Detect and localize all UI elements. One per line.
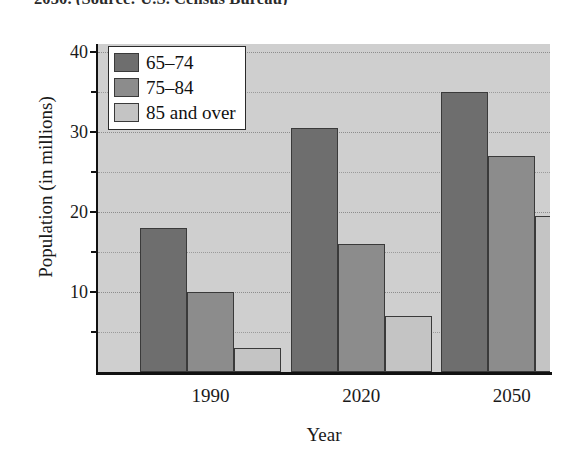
bar-2050-series-1 bbox=[488, 156, 535, 372]
bar-2020-series-2 bbox=[385, 316, 432, 372]
bar-2020-series-0 bbox=[291, 128, 338, 372]
legend-swatch-1 bbox=[114, 78, 139, 97]
x-axis-tick-labels: 199020202050 bbox=[98, 385, 550, 413]
legend-item-0: 65–74 bbox=[114, 51, 236, 74]
x-tick-label-1990: 1990 bbox=[192, 385, 230, 407]
x-axis-spine bbox=[96, 372, 552, 375]
bar-2020-series-1 bbox=[338, 244, 385, 372]
bar-2050-series-0 bbox=[441, 92, 488, 372]
bar-1990-series-0 bbox=[140, 228, 187, 372]
legend-item-2: 85 and over bbox=[114, 101, 236, 124]
y-tick-label-10: 10 bbox=[54, 283, 88, 301]
x-tick-label-2050: 2050 bbox=[493, 385, 531, 407]
bar-1990-series-2 bbox=[234, 348, 281, 372]
legend-swatch-0 bbox=[114, 53, 139, 72]
chart-legend: 65–7475–8485 and over bbox=[108, 46, 246, 130]
chart-figure: 2050. (Source: U.S. Census Bureau) Popul… bbox=[0, 0, 572, 470]
legend-label-0: 65–74 bbox=[146, 53, 194, 72]
legend-item-1: 75–84 bbox=[114, 76, 236, 99]
y-tick-label-20: 20 bbox=[54, 203, 88, 221]
legend-label-2: 85 and over bbox=[146, 103, 236, 122]
bar-1990-series-1 bbox=[187, 292, 234, 372]
x-axis-title: Year bbox=[98, 424, 550, 446]
x-tick-label-2020: 2020 bbox=[342, 385, 380, 407]
y-tick-label-30: 30 bbox=[54, 123, 88, 141]
y-axis-tick-labels: 10203040 bbox=[44, 0, 88, 470]
y-tick-label-40: 40 bbox=[54, 43, 88, 61]
legend-label-1: 75–84 bbox=[146, 78, 194, 97]
legend-swatch-2 bbox=[114, 103, 139, 122]
bar-2050-series-2 bbox=[535, 216, 550, 372]
